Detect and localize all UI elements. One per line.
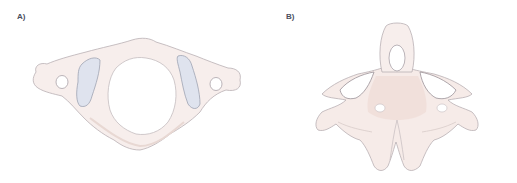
left-notch — [375, 104, 385, 112]
dens-articular-facet — [389, 45, 405, 71]
right-notch — [437, 104, 447, 112]
body-shading — [367, 76, 426, 120]
panel-atlas: A) — [0, 0, 258, 183]
atlas-illustration — [0, 0, 258, 183]
left-transverse-foramen — [56, 76, 68, 89]
vertebral-foramen — [108, 57, 176, 134]
right-transverse-foramen — [210, 78, 222, 91]
axis-illustration — [258, 0, 517, 183]
panel-axis: B) — [258, 0, 517, 183]
